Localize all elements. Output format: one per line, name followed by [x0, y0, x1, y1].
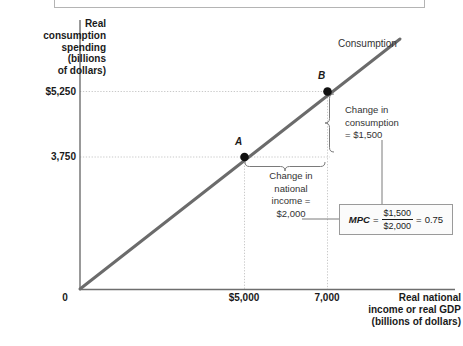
x-axis-title: Real national income or real GDP (billio…: [337, 292, 461, 327]
y-tick-label-3750: 3,750: [20, 151, 76, 163]
brace-consumption: [325, 94, 334, 152]
x-tick-label-5000: $5,000: [216, 292, 272, 304]
data-point-a: [240, 153, 249, 162]
point-b-label: B: [318, 70, 325, 82]
mpc-result-value: 0.75: [425, 214, 444, 225]
data-point-b: [323, 87, 332, 96]
consumption-line: [80, 39, 400, 289]
point-a-label: A: [235, 136, 242, 148]
annotation-change-in-national-income: Change in national income = $2,000: [252, 170, 330, 221]
mpc-numerator: $1,500: [382, 208, 414, 220]
mpc-equals-sign-2: =: [416, 214, 422, 225]
mpc-fraction: $1,500 $2,000: [382, 208, 414, 230]
origin-label: 0: [58, 292, 72, 304]
annotation-change-in-consumption: Change in consumption = $1,500: [345, 104, 450, 142]
consumption-line-label: Consumption: [338, 38, 397, 50]
mpc-label: MPC: [349, 214, 370, 225]
consumption-function-figure: Real consumption spending (billions of d…: [0, 0, 463, 346]
mpc-formula-box: MPC = $1,500 $2,000 = 0.75: [339, 204, 453, 235]
y-tick-label-5250: $5,250: [20, 86, 76, 98]
mpc-equals-sign-1: =: [373, 214, 379, 225]
y-axis-title: Real consumption spending (billions of d…: [8, 18, 106, 77]
mpc-denominator: $2,000: [382, 220, 414, 231]
